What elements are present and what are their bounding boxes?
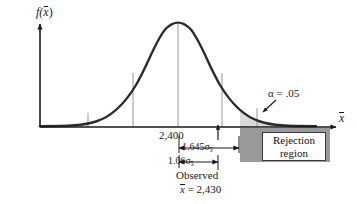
observed-value-xbar: x [180, 184, 185, 195]
x-axis-label: x [339, 112, 344, 124]
observed-interval-value: 1.06 [168, 155, 186, 166]
alpha-label: α = .05 [268, 88, 299, 99]
x-axis-label-xbar: x [339, 112, 344, 124]
observed-interval-label: 1.06σx [168, 156, 194, 167]
observed-interval-subscript: x [191, 161, 194, 167]
y-axis-label: f(x) [36, 6, 53, 18]
observed-value-equation: = 2,430 [185, 183, 221, 195]
mean-label: 2,400 [159, 130, 184, 141]
observed-caption: Observed [176, 170, 218, 181]
y-axis-label-paren: ) [49, 5, 53, 19]
alpha-leader-arrow [263, 100, 276, 112]
y-axis-label-xbar: x [43, 6, 48, 18]
rejection-region-line-2: region [263, 147, 325, 160]
critical-interval-subscript: x [210, 147, 213, 153]
critical-interval-value: 1.645 [182, 141, 205, 152]
distribution-figure: f(x) x 2,400 α = .05 1.645σx 1.06σx Obse… [0, 0, 357, 204]
rejection-region-line-1: Rejection [263, 134, 325, 147]
critical-interval-label: 1.645σx [182, 142, 213, 153]
observed-value-label: x = 2,430 [180, 184, 221, 195]
rejection-region-label-box: Rejection region [262, 132, 326, 161]
